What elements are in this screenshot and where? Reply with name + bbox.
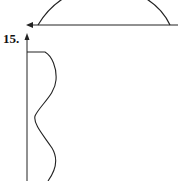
up-arrow-icon [25,33,30,40]
diagram [0,0,178,181]
wavy-curve [27,52,56,181]
bottom-figure [25,33,57,181]
top-figure [26,0,178,28]
left-arrow-icon [26,22,33,28]
semicircle-arc [38,0,170,25]
